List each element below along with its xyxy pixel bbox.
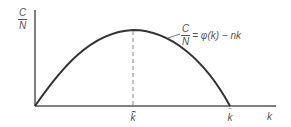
curve-label-leader <box>168 34 180 38</box>
y-axis-label: C N <box>18 8 27 31</box>
chart-canvas <box>0 0 291 127</box>
equation-denominator: N <box>182 36 189 47</box>
k-hat-label: ⌢ k <box>128 112 138 123</box>
bar-accent: ‾ <box>225 107 235 116</box>
curve-equation-label: C N = φ(k) − nk <box>181 24 241 47</box>
x-axis-label: k <box>267 112 272 122</box>
hat-accent: ⌢ <box>128 107 138 117</box>
equation-numerator: C <box>181 24 190 36</box>
equation-rhs: = φ(k) − nk <box>192 30 241 41</box>
y-label-numerator: C <box>18 8 27 20</box>
y-label-denominator: N <box>19 20 26 31</box>
equation-fraction: C N <box>181 24 190 47</box>
k-bar-label: ‾ k <box>225 112 235 123</box>
